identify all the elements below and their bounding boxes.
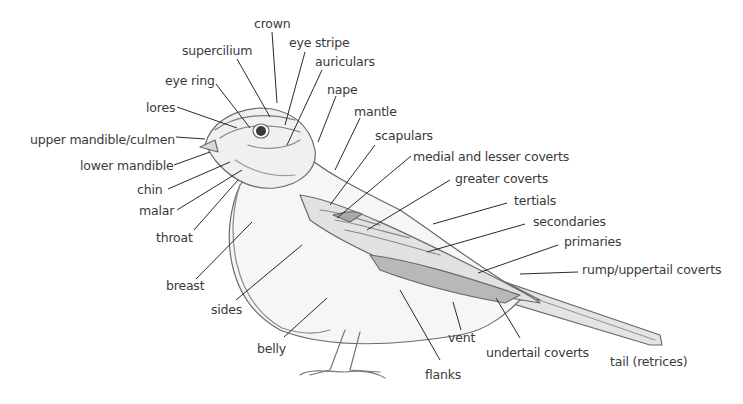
label-secondaries: secondaries [533,216,606,229]
label-chin: chin [137,184,162,197]
label-eye-ring: eye ring [165,75,215,88]
label-vent: vent [448,332,475,345]
label-lower-mandible: lower mandible [80,160,174,173]
label-undertail-coverts: undertail coverts [486,347,589,360]
label-auriculars: auriculars [315,56,375,69]
label-eye-stripe: eye stripe [289,37,349,50]
label-sides: sides [211,304,242,317]
label-mantle: mantle [354,106,397,119]
label-lores: lores [146,102,175,115]
label-malar: malar [139,205,174,218]
label-belly: belly [257,343,286,356]
label-tail-retrices: tail (retrices) [610,356,687,369]
label-tertials: tertials [514,195,556,208]
label-crown: crown [254,18,291,31]
label-nape: nape [327,84,357,97]
label-scapulars: scapulars [375,130,433,143]
label-breast: breast [166,280,204,293]
label-throat: throat [156,232,193,245]
label-greater-coverts: greater coverts [455,173,548,186]
label-upper-mandible: upper mandible/culmen [30,134,175,147]
label-medial-lesser-coverts: medial and lesser coverts [413,151,569,164]
label-rump-uppertail-coverts: rump/uppertail coverts [582,264,721,277]
label-flanks: flanks [425,369,461,382]
label-primaries: primaries [564,236,621,249]
label-supercilium: supercilium [182,45,252,58]
bird-topography-diagram: crown supercilium eye stripe auriculars … [0,0,743,404]
